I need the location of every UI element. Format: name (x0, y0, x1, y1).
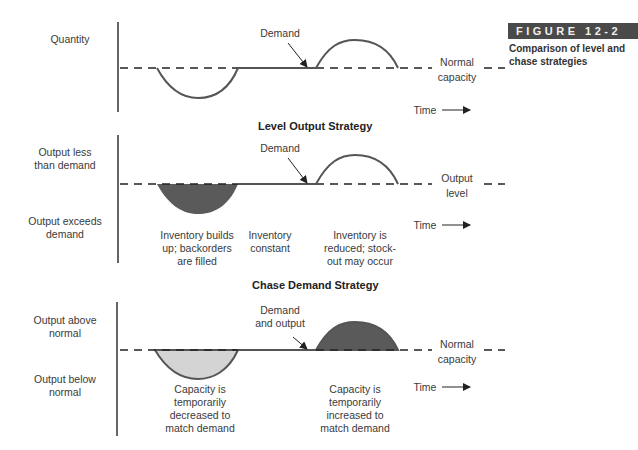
demand-label: Demand (255, 27, 305, 40)
time-label: Time (408, 381, 442, 394)
note-temporarily: temporarily (155, 396, 245, 409)
y-label-normal: normal (25, 327, 105, 340)
note-inventory-is: Inventory is (310, 229, 410, 242)
note-reduced-stock: reduced; stock- (310, 242, 410, 255)
figure-tag: FIGURE 12-2 (508, 23, 638, 39)
demand-arrow (293, 337, 307, 349)
level-label: level (432, 187, 482, 200)
figure-caption: Comparison of level and chase strategies (509, 42, 637, 68)
note-decreased-to: decreased to (155, 409, 245, 422)
note-inventory-builds: Inventory builds (152, 229, 242, 242)
capacity-increase-area (316, 322, 398, 350)
y-label-output-less: Output less (25, 146, 105, 159)
demand-arrow (288, 43, 307, 67)
demand-label: Demand (255, 142, 305, 155)
normal-label: Normal (432, 56, 482, 69)
demand-curve (157, 40, 398, 98)
note-inventory: Inventory (240, 229, 300, 242)
output-label: Output (432, 172, 482, 185)
chase-demand-strategy-title: Chase Demand Strategy (252, 279, 379, 291)
capacity-label: capacity (432, 353, 482, 366)
y-label-output-exceeds: Output exceeds (20, 215, 110, 228)
demand-arrow (288, 158, 307, 183)
time-label: Time (408, 104, 442, 117)
level-output-strategy-title: Level Output Strategy (258, 120, 372, 132)
note-capacity-is: Capacity is (310, 383, 400, 396)
y-label-demand: demand (20, 228, 110, 241)
y-label-normal: normal (25, 386, 105, 399)
note-backorders: up; backorders (152, 242, 242, 255)
note-out-may-occur: out may occur (310, 255, 410, 268)
note-match-demand: match demand (310, 422, 400, 435)
time-label: Time (408, 219, 442, 232)
capacity-decrease-area (155, 350, 238, 379)
y-label-than-demand: than demand (25, 159, 105, 172)
inventory-buildup-area (157, 184, 238, 214)
y-label-quantity: Quantity (40, 33, 100, 46)
y-label-output-below: Output below (25, 373, 105, 386)
note-match-demand: match demand (155, 422, 245, 435)
normal-label: Normal (432, 338, 482, 351)
demand-curve (238, 155, 398, 184)
note-capacity-is: Capacity is (155, 383, 245, 396)
note-are-filled: are filled (152, 255, 242, 268)
y-label-output-above: Output above (25, 314, 105, 327)
demand-label: Demand (250, 304, 310, 317)
and-output-label: and output (250, 317, 310, 330)
note-increased-to: increased to (310, 409, 400, 422)
note-constant: constant (240, 242, 300, 255)
capacity-label: capacity (432, 71, 482, 84)
note-temporarily: temporarily (310, 396, 400, 409)
